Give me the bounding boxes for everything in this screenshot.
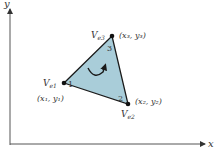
node-dot: [62, 81, 67, 86]
local-node-number: 1: [68, 80, 73, 89]
vertex-1: 1 Ve1 (x₁, y₁): [37, 78, 73, 103]
vertex-coordinates: (x₂, y₂): [135, 97, 162, 106]
local-node-number: 3: [107, 44, 112, 53]
x-axis-label: x: [208, 138, 214, 149]
vertex-name: Ve3: [91, 30, 105, 41]
triangular-element-diagram: y x 1 Ve1 (x₁, y₁) 2 (x₂, y₂) Ve2 3 Ve3 …: [0, 0, 215, 158]
vertex-coordinates: (x₁, y₁): [37, 94, 64, 103]
node-dot: [126, 102, 131, 107]
y-axis-label: y: [3, 0, 10, 9]
vertex-name: Ve1: [43, 78, 57, 89]
node-dot: [110, 34, 115, 39]
local-node-number: 2: [118, 94, 123, 103]
vertex-coordinates: (x₃, y₃): [119, 31, 146, 40]
vertex-name: Ve2: [121, 109, 135, 120]
